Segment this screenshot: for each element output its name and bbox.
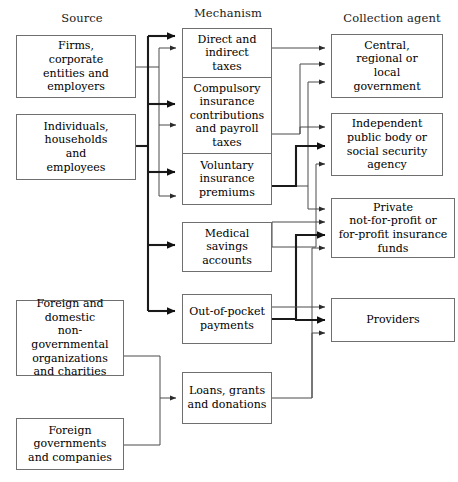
node-line: Voluntary <box>199 159 255 173</box>
node-line: social security <box>347 145 427 159</box>
node-line: insurance <box>199 172 255 186</box>
node-line: not-for-profit or <box>339 214 448 228</box>
node-line: organizations <box>20 352 120 366</box>
node-line: non-governmental <box>20 324 120 351</box>
node-line: government <box>353 80 420 94</box>
node-source-firms[interactable]: Firms, corporate entities and employers <box>16 35 136 98</box>
node-line: savings <box>202 240 252 254</box>
node-line: local <box>353 66 420 80</box>
node-line: Firms, <box>43 39 109 53</box>
node-line: Private <box>339 201 448 215</box>
node-line: Foreign <box>28 424 112 438</box>
node-line: and payroll <box>190 122 264 136</box>
node-line: contributions <box>190 109 264 123</box>
node-line: accounts <box>202 254 252 268</box>
node-line: Individuals, <box>43 120 108 134</box>
node-line: for-profit insurance <box>339 228 448 242</box>
node-line: domestic <box>20 311 120 325</box>
node-line: indirect <box>198 46 257 60</box>
node-line: and companies <box>28 451 112 465</box>
node-line: and donations <box>188 398 267 412</box>
node-source-ngos[interactable]: Foreign and domestic non-governmental or… <box>16 300 124 376</box>
node-line: Out-of-pocket <box>189 305 265 319</box>
node-line: regional or <box>353 52 420 66</box>
node-line: Loans, grants <box>188 384 267 398</box>
node-line: premiums <box>199 186 255 200</box>
node-line: Direct and <box>198 33 257 47</box>
node-line: Central, <box>353 39 420 53</box>
node-mechanism-compulsory-insurance[interactable]: Compulsory insurance contributions and p… <box>182 78 272 154</box>
node-line: entities and <box>43 67 109 81</box>
node-line: payments <box>189 319 265 333</box>
node-mechanism-medical-savings-accounts[interactable]: Medical savings accounts <box>182 222 272 272</box>
node-line: Foreign and <box>20 297 120 311</box>
node-line: employers <box>43 80 109 94</box>
node-mechanism-out-of-pocket-payments[interactable]: Out-of-pocket payments <box>182 294 272 344</box>
node-line: taxes <box>198 60 257 74</box>
node-agent-private-insurance-funds[interactable]: Private not-for-profit or for-profit ins… <box>331 198 455 258</box>
node-line: and <box>43 147 108 161</box>
node-line: agency <box>347 158 427 172</box>
node-line: corporate <box>43 53 109 67</box>
node-line: taxes <box>190 136 264 150</box>
node-mechanism-direct-indirect-taxes[interactable]: Direct and indirect taxes <box>182 28 272 78</box>
node-line: Medical <box>202 227 252 241</box>
node-line: employees <box>43 161 108 175</box>
node-line: funds <box>339 242 448 256</box>
node-agent-government[interactable]: Central, regional or local government <box>331 34 443 98</box>
node-line: Independent <box>347 117 427 131</box>
node-line: and charities <box>20 365 120 379</box>
node-line: Providers <box>366 313 419 327</box>
node-line: governments <box>28 437 112 451</box>
node-line: households <box>43 133 108 147</box>
node-agent-providers[interactable]: Providers <box>331 298 455 342</box>
node-mechanism-voluntary-insurance[interactable]: Voluntary insurance premiums <box>182 154 272 205</box>
node-source-foreign-governments[interactable]: Foreign governments and companies <box>16 418 124 470</box>
node-line: insurance <box>190 95 264 109</box>
node-agent-independent-public-body[interactable]: Independent public body or social securi… <box>331 113 443 176</box>
node-line: public body or <box>347 131 427 145</box>
node-source-individuals[interactable]: Individuals, households and employees <box>16 114 136 180</box>
financing-flow-diagram: Source Mechanism Collection agent <box>0 0 458 482</box>
node-line: Compulsory <box>190 82 264 96</box>
node-mechanism-loans-grants-donations[interactable]: Loans, grants and donations <box>182 372 272 424</box>
